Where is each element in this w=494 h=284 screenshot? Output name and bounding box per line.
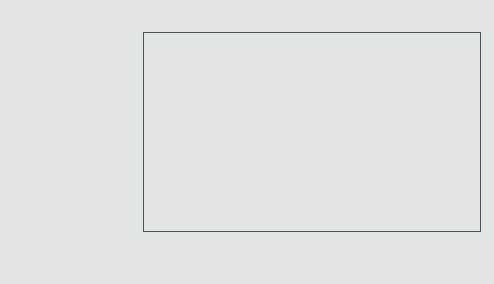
- plot-frame: [143, 32, 481, 232]
- percentile-bands-chart: [0, 0, 494, 284]
